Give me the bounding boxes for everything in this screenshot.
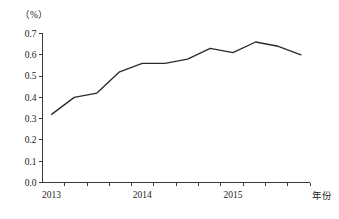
y-tick-label: 0.5: [25, 71, 37, 81]
y-tick-label: 0.7: [25, 29, 37, 39]
y-axis-label-group: 0.00.10.20.30.40.50.60.7: [25, 29, 37, 188]
x-axis-title: 年份: [312, 190, 332, 201]
y-tick-label: 0.1: [25, 157, 37, 167]
y-tick-label: 0.2: [25, 135, 37, 145]
y-tick-label: 0.4: [25, 93, 37, 103]
x-axis-label-group: 201320142015: [42, 190, 243, 200]
line-chart-figure: 0.00.10.20.30.40.50.60.7 201320142015 （%…: [0, 0, 339, 219]
axis-group: [43, 33, 311, 183]
x-axis-tick-group: [65, 183, 310, 187]
chart-canvas: 0.00.10.20.30.40.50.60.7 201320142015 （%…: [0, 0, 339, 219]
y-axis-unit-label: （%）: [20, 9, 48, 20]
data-series-line: [52, 42, 301, 114]
x-tick-label: 2014: [133, 190, 152, 200]
x-tick-label: 2013: [42, 190, 61, 200]
y-axis-tick-group: [39, 34, 43, 183]
y-tick-label: 0.3: [25, 114, 37, 124]
y-tick-label: 0.6: [25, 50, 37, 60]
x-tick-label: 2015: [223, 190, 242, 200]
y-tick-label: 0.0: [25, 178, 37, 188]
